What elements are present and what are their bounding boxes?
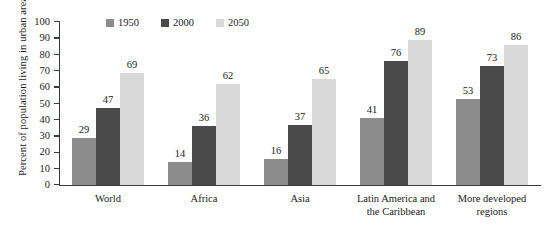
bar[interactable]: 73 [480, 66, 504, 185]
bar-value-label: 29 [79, 124, 90, 136]
bar[interactable]: 37 [288, 125, 312, 185]
y-axis-tick-label: 0 [10, 179, 50, 191]
bar-value-label: 37 [295, 111, 306, 123]
bar-value-label: 69 [127, 59, 138, 71]
y-axis-tick-label: 90 [10, 32, 50, 44]
bar-value-label: 53 [463, 85, 474, 97]
bar-value-label: 86 [511, 31, 522, 43]
y-axis-tick-label: 50 [10, 98, 50, 110]
y-axis-tick-label: 60 [10, 81, 50, 93]
y-axis-tick: 50 [0, 98, 60, 110]
y-axis-tick-label: 20 [10, 146, 50, 158]
bar-group: 537386 [456, 22, 528, 185]
y-axis-tick: 80 [0, 49, 60, 61]
x-axis-category-label: More developedregions [432, 192, 552, 218]
bar[interactable]: 62 [216, 84, 240, 185]
y-axis-tick: 0 [0, 179, 60, 191]
category-label-line: Africa [191, 193, 218, 204]
y-axis-tick: 30 [0, 130, 60, 142]
y-axis-tick: 10 [0, 163, 60, 175]
category-label-line: regions [432, 205, 552, 218]
bar[interactable]: 89 [408, 40, 432, 185]
bar[interactable]: 41 [360, 118, 384, 185]
bar-value-label: 62 [223, 70, 234, 82]
bar-value-label: 65 [319, 65, 330, 77]
bar-value-label: 36 [199, 112, 210, 124]
bar[interactable]: 86 [504, 45, 528, 185]
y-axis-tick-label: 100 [10, 16, 50, 28]
bar-value-label: 73 [487, 52, 498, 64]
bar-value-label: 47 [103, 94, 114, 106]
y-axis-tick: 60 [0, 81, 60, 93]
y-axis-tick-label: 40 [10, 114, 50, 126]
bar-group: 143662 [168, 22, 240, 185]
bar[interactable]: 16 [264, 159, 288, 185]
bar[interactable]: 29 [72, 138, 96, 185]
bar[interactable]: 76 [384, 61, 408, 185]
y-axis-tick: 40 [0, 114, 60, 126]
bar[interactable]: 14 [168, 162, 192, 185]
category-label-line: Asia [290, 193, 309, 204]
y-axis-tick-label: 30 [10, 130, 50, 142]
bar-value-label: 14 [175, 148, 186, 160]
y-axis-tick: 100 [0, 16, 60, 28]
bar[interactable]: 65 [312, 79, 336, 185]
bar-value-label: 16 [271, 145, 282, 157]
bar-value-label: 89 [415, 26, 426, 38]
bar-value-label: 41 [367, 104, 378, 116]
y-axis-tick-label: 70 [10, 65, 50, 77]
bar[interactable]: 47 [96, 108, 120, 185]
bar-chart: Percent of population living in urban ar… [0, 0, 559, 233]
category-label-line: More developed [458, 193, 527, 204]
bar-group: 294769 [72, 22, 144, 185]
category-label-line: Latin America and [357, 193, 435, 204]
y-axis-tick: 90 [0, 32, 60, 44]
y-axis-tick-label: 10 [10, 163, 50, 175]
y-axis-tick: 70 [0, 65, 60, 77]
y-axis-tick-label: 80 [10, 49, 50, 61]
bar-group: 163765 [264, 22, 336, 185]
x-axis-line [59, 185, 541, 186]
category-label-line: World [95, 193, 121, 204]
y-axis-tick: 20 [0, 146, 60, 158]
plot-area: 294769143662163765417689537386 [60, 22, 540, 185]
bar-value-label: 76 [391, 47, 402, 59]
bar-group: 417689 [360, 22, 432, 185]
bar[interactable]: 69 [120, 73, 144, 185]
bar[interactable]: 36 [192, 126, 216, 185]
bar[interactable]: 53 [456, 99, 480, 185]
